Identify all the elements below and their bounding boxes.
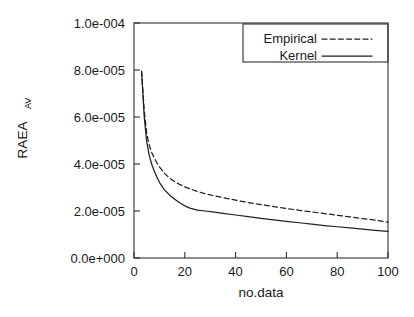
x-tick-label: 20 xyxy=(178,264,192,279)
x-tick-label: 60 xyxy=(279,264,293,279)
x-axis-title-text: no.data xyxy=(238,285,284,300)
y-axis-title-text: RAEA xyxy=(15,122,30,159)
series-line-kernel xyxy=(142,72,388,231)
chart-legend: EmpiricalKernel xyxy=(243,24,388,63)
y-tick-label: 6.0e-005 xyxy=(74,110,125,125)
y-axis-ticks xyxy=(134,23,140,258)
x-tick-label: 0 xyxy=(130,264,137,279)
data-series-group xyxy=(142,71,388,231)
y-tick-label: 4.0e-005 xyxy=(74,157,125,172)
y-axis-title-subscript: AV xyxy=(23,98,33,109)
series-line-empirical xyxy=(142,71,388,222)
legend-label-kernel: Kernel xyxy=(279,48,317,63)
chart-figure: 0.0e+0002.0e-0054.0e-0056.0e-0058.0e-005… xyxy=(0,0,414,317)
line-chart: 0.0e+0002.0e-0054.0e-0056.0e-0058.0e-005… xyxy=(0,0,414,317)
y-tick-label: 1.0e-004 xyxy=(74,16,125,31)
y-tick-label: 2.0e-005 xyxy=(74,204,125,219)
x-tick-label: 80 xyxy=(330,264,344,279)
x-tick-label: 40 xyxy=(228,264,242,279)
y-tick-label: 0.0e+000 xyxy=(70,251,125,266)
y-tick-label: 8.0e-005 xyxy=(74,63,125,78)
x-tick-label: 100 xyxy=(377,264,399,279)
x-axis-ticks xyxy=(134,252,388,258)
legend-label-empirical: Empirical xyxy=(264,31,318,46)
y-axis-tick-labels: 0.0e+0002.0e-0054.0e-0056.0e-0058.0e-005… xyxy=(70,16,125,266)
y-axis-title: RAEA AV xyxy=(15,98,33,159)
x-axis-tick-labels: 020406080100 xyxy=(130,264,398,279)
plot-frame xyxy=(134,23,388,258)
